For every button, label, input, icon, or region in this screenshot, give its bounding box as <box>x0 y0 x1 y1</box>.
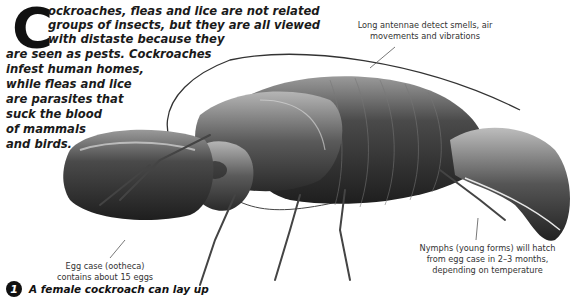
fact-text: A female cockroach can lay up <box>29 283 209 295</box>
label-line: Nymphs (young forms) will hatch <box>405 243 570 254</box>
label-antennae: Long antennae detect smells, air movemen… <box>340 20 510 42</box>
label-line: from egg case in 2–3 months, <box>405 254 570 265</box>
intro-line: suck the blood <box>6 107 102 121</box>
intro-line: of mammals <box>6 122 86 136</box>
label-line: Egg case (ootheca) <box>45 261 165 272</box>
intro-line: and birds. <box>6 137 72 151</box>
intro-line: ockroaches, fleas and lice are not relat… <box>48 4 320 18</box>
label-egg-case: Egg case (ootheca) contains about 15 egg… <box>45 261 165 283</box>
label-line: movements and vibrations <box>340 31 510 42</box>
label-line: Long antennae detect smells, air <box>340 20 510 31</box>
intro-line: infest human homes, <box>6 62 144 76</box>
intro-line: groups of insects, but they are all view… <box>48 18 320 32</box>
fact-item: 1 A female cockroach can lay up <box>6 281 209 297</box>
intro-line: are seen as pests. Cockroaches <box>6 47 212 61</box>
intro-line: while fleas and lice <box>6 77 132 91</box>
fact-number-icon: 1 <box>6 281 22 297</box>
label-line: depending on temperature <box>405 265 570 276</box>
label-nymphs: Nymphs (young forms) will hatch from egg… <box>405 243 570 276</box>
intro-line: are parasites that <box>6 92 123 106</box>
intro-line: with distaste because they <box>48 32 225 46</box>
